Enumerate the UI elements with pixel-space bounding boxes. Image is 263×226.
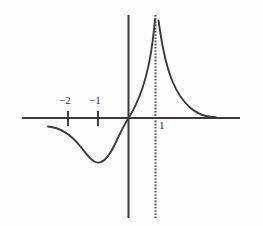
x-axis-label-neg-2: −2 [59, 95, 71, 106]
x-axis-label-neg-1: −1 [89, 95, 101, 106]
function-graph-figure: −2 −1 1 [0, 0, 263, 226]
curve-right-branch [159, 21, 216, 118]
curve-left-branch [48, 20, 155, 163]
x-axis-label-one: 1 [159, 120, 165, 131]
plot-canvas [0, 0, 263, 226]
